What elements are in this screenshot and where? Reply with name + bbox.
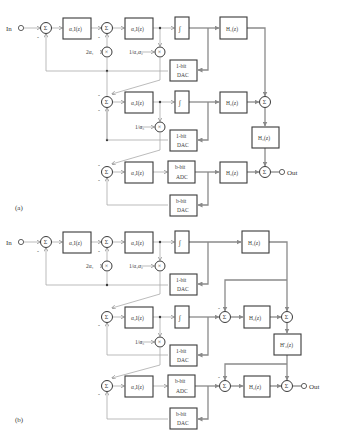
svg-text:2α₁: 2α₁ bbox=[86, 263, 94, 269]
svg-text:α₃I(z): α₃I(z) bbox=[131, 100, 144, 107]
svg-text:α₁I(z): α₁I(z) bbox=[69, 240, 82, 247]
svg-text:H₁(z): H₁(z) bbox=[226, 26, 238, 33]
input-label-a: In bbox=[6, 25, 12, 33]
panel-b-blocks: In Σ - α₁I(z) Σ - α₂I(z) 2α₁ × 1/α₁α₂ × … bbox=[6, 231, 320, 429]
svg-text:1/α₁α₂: 1/α₁α₂ bbox=[129, 49, 143, 55]
svg-text:b-bit: b-bit bbox=[175, 164, 186, 170]
sigma-icon: Σ bbox=[223, 314, 227, 320]
quantizer-b2 bbox=[175, 306, 189, 328]
svg-text:-: - bbox=[98, 34, 100, 40]
svg-text:DAC: DAC bbox=[177, 207, 189, 213]
svg-text:1-bit: 1-bit bbox=[176, 63, 187, 69]
svg-text:DAC: DAC bbox=[177, 72, 189, 78]
svg-text:DAC: DAC bbox=[177, 286, 189, 292]
sigma-icon: Σ bbox=[263, 99, 267, 105]
sigma-icon: Σ bbox=[105, 239, 109, 245]
sigma-icon: Σ bbox=[44, 25, 48, 31]
svg-text:DAC: DAC bbox=[177, 420, 189, 426]
svg-text:-: - bbox=[98, 92, 100, 98]
input-port-a bbox=[18, 25, 23, 30]
sigma-icon: Σ bbox=[44, 239, 48, 245]
svg-text:-: - bbox=[98, 322, 100, 328]
sigma-icon: Σ bbox=[263, 169, 267, 175]
svg-text:-: - bbox=[98, 391, 100, 397]
svg-text:1-bit: 1-bit bbox=[176, 277, 187, 283]
quantizer-b1 bbox=[175, 231, 189, 253]
quantizer-a1 bbox=[175, 17, 189, 39]
svg-text:ADC: ADC bbox=[176, 174, 188, 180]
svg-text:H₂(z): H₂(z) bbox=[226, 100, 238, 107]
svg-text:α₄I(z): α₄I(z) bbox=[131, 384, 144, 391]
svg-text:α₂I(z): α₂I(z) bbox=[131, 26, 144, 33]
svg-text:-: - bbox=[218, 374, 220, 380]
quantizer-a2 bbox=[175, 91, 189, 113]
svg-text:H'₃(z): H'₃(z) bbox=[280, 342, 293, 349]
sigma-icon: Σ bbox=[105, 314, 109, 320]
panel-label-a: (a) bbox=[15, 204, 23, 212]
svg-text:DAC: DAC bbox=[177, 142, 189, 148]
svg-text:α₂I(z): α₂I(z) bbox=[131, 240, 144, 247]
svg-text:b-bit: b-bit bbox=[176, 411, 187, 417]
svg-text:-: - bbox=[98, 248, 100, 254]
output-label-a: Out bbox=[287, 169, 298, 177]
svg-text:H₁(z): H₁(z) bbox=[248, 240, 260, 247]
multiply-icon: × bbox=[105, 263, 108, 269]
svg-text:α₄I(z): α₄I(z) bbox=[131, 170, 144, 177]
svg-text:H₂(z): H₂(z) bbox=[249, 384, 261, 391]
svg-text:-: - bbox=[98, 162, 100, 168]
svg-text:DAC: DAC bbox=[177, 357, 189, 363]
input-label-b: In bbox=[6, 239, 12, 247]
svg-text:2α₁: 2α₁ bbox=[86, 49, 94, 55]
multiply-icon: × bbox=[158, 339, 161, 345]
svg-text:α₁I(z): α₁I(z) bbox=[69, 26, 82, 33]
svg-text:-: - bbox=[98, 177, 100, 183]
sigma-icon: Σ bbox=[105, 99, 109, 105]
input-port-b bbox=[18, 239, 23, 244]
svg-text:b-bit: b-bit bbox=[176, 198, 187, 204]
panel-label-b: (b) bbox=[15, 416, 24, 424]
multiply-icon: × bbox=[105, 49, 108, 55]
multiply-icon: × bbox=[158, 263, 161, 269]
svg-text:H₃(z): H₃(z) bbox=[258, 135, 270, 142]
sigma-icon: Σ bbox=[285, 314, 289, 320]
sigma-icon: Σ bbox=[223, 383, 227, 389]
sigma-icon: Σ bbox=[285, 383, 289, 389]
svg-text:1/α₃: 1/α₃ bbox=[135, 124, 144, 130]
svg-text:1/α₃: 1/α₃ bbox=[135, 339, 144, 345]
svg-text:-: - bbox=[218, 305, 220, 311]
svg-text:H₂(z): H₂(z) bbox=[249, 315, 261, 322]
svg-text:-: - bbox=[37, 248, 39, 254]
svg-text:1-bit: 1-bit bbox=[176, 348, 187, 354]
panel-a-blocks: In Σ - α₁I(z) Σ - α₂I(z) 2α₁ × 1/α₁α₂ × … bbox=[6, 17, 298, 216]
multiply-icon: × bbox=[158, 49, 161, 55]
svg-text:b-bit: b-bit bbox=[175, 378, 186, 384]
sigma-icon: Σ bbox=[105, 383, 109, 389]
svg-text:-: - bbox=[37, 34, 39, 40]
svg-text:-: - bbox=[98, 107, 100, 113]
sigma-icon: Σ bbox=[105, 169, 109, 175]
multiply-icon: × bbox=[158, 124, 161, 130]
sigma-icon: Σ bbox=[105, 25, 109, 31]
svg-text:ADC: ADC bbox=[176, 388, 188, 394]
output-label-b: Out bbox=[309, 383, 320, 391]
sigma-delta-modulator-figure: In Σ - α₁I(z) Σ - α₂I(z) 2α₁ × 1/α₁α₂ × … bbox=[0, 0, 337, 446]
svg-text:1/α₁α₂: 1/α₁α₂ bbox=[129, 263, 143, 269]
svg-text:H₃(z): H₃(z) bbox=[226, 170, 238, 177]
svg-text:1-bit: 1-bit bbox=[176, 133, 187, 139]
svg-text:α₃I(z): α₃I(z) bbox=[131, 315, 144, 322]
